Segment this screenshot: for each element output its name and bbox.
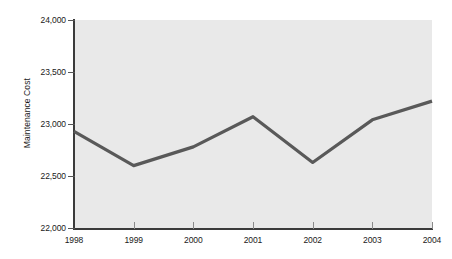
x-axis-tick <box>193 222 194 229</box>
y-axis-tick-label: 24,000 <box>41 16 66 25</box>
y-axis-tick <box>68 20 75 21</box>
x-axis-tick <box>253 222 254 229</box>
x-axis-tick-label: 2002 <box>303 236 322 245</box>
x-axis-tick-label: 2003 <box>363 236 382 245</box>
y-axis-tick <box>68 176 75 177</box>
plot-area <box>74 20 432 228</box>
y-axis-tick-label: 23,000 <box>41 120 66 129</box>
x-axis-tick-label: 1998 <box>65 236 84 245</box>
x-axis-tick <box>313 222 314 229</box>
y-axis-tick <box>68 228 75 229</box>
x-axis-tick <box>134 222 135 229</box>
x-axis-tick <box>432 222 433 229</box>
x-axis-tick-label: 2001 <box>244 236 263 245</box>
x-axis-tick <box>372 222 373 229</box>
y-axis-tick-label: 22,000 <box>41 224 66 233</box>
y-axis-tick-label: 22,500 <box>41 172 66 181</box>
x-axis-tick-label: 2004 <box>423 236 442 245</box>
x-axis-tick-label: 2000 <box>184 236 203 245</box>
y-axis-tick-label: 23,500 <box>41 68 66 77</box>
y-axis-tick <box>68 124 75 125</box>
y-axis-title: Maintenance Cost <box>22 78 32 148</box>
y-axis-tick <box>68 72 75 73</box>
line-chart: 24,00023,50023,00022,50022,000 199819992… <box>0 0 452 259</box>
x-axis-tick-label: 1999 <box>124 236 143 245</box>
